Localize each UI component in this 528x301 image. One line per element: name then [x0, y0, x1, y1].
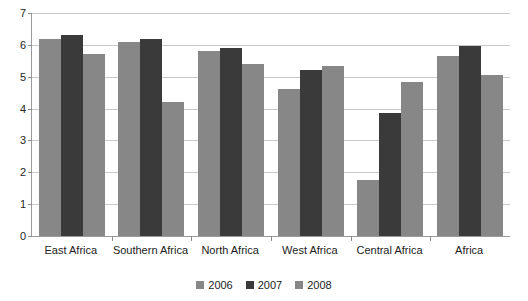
- bar-chart: 01234567 East AfricaSouthern AfricaNorth…: [0, 0, 528, 301]
- y-axis-label: 6: [20, 39, 26, 50]
- bar: [379, 113, 401, 236]
- x-axis-tick: [351, 236, 352, 241]
- x-axis-tick: [430, 236, 431, 241]
- bar: [198, 51, 220, 236]
- bar: [278, 89, 300, 236]
- legend-label: 2008: [307, 279, 331, 291]
- bar: [118, 42, 140, 236]
- legend-swatch-icon: [246, 281, 254, 289]
- chart-legend: 200620072008: [0, 279, 528, 291]
- category-label: West Africa: [270, 244, 350, 257]
- y-axis-label: 0: [20, 231, 26, 242]
- x-axis-tick: [271, 236, 272, 241]
- y-axis-label: 4: [20, 103, 26, 114]
- legend-label: 2007: [258, 279, 282, 291]
- category-label: Africa: [429, 244, 509, 257]
- legend-label: 2006: [208, 279, 232, 291]
- y-axis-label: 1: [20, 199, 26, 210]
- bar-group: [32, 13, 112, 236]
- bar: [401, 82, 423, 237]
- legend-item[interactable]: 2007: [246, 279, 282, 291]
- bar: [61, 35, 83, 236]
- bar-group: [271, 13, 351, 236]
- legend-swatch-icon: [196, 281, 204, 289]
- category-label: North Africa: [190, 244, 270, 257]
- y-axis-label: 3: [20, 135, 26, 146]
- bar-group: [351, 13, 431, 236]
- plot-area: 01234567: [31, 13, 510, 237]
- bar: [140, 39, 162, 237]
- bar-group: [191, 13, 271, 236]
- y-axis-label: 7: [20, 8, 26, 19]
- bar: [300, 70, 322, 236]
- bar: [481, 75, 503, 236]
- bar-group: [112, 13, 192, 236]
- bar-group: [430, 13, 510, 236]
- bar: [357, 180, 379, 236]
- legend-item[interactable]: 2006: [196, 279, 232, 291]
- x-axis-tick: [112, 236, 113, 241]
- y-axis-label: 2: [20, 167, 26, 178]
- bar: [39, 39, 61, 237]
- legend-item[interactable]: 2008: [295, 279, 331, 291]
- legend-swatch-icon: [295, 281, 303, 289]
- y-axis-tick: [28, 236, 32, 237]
- category-label: Central Africa: [350, 244, 430, 257]
- bar: [459, 46, 481, 236]
- chart-title: [40, 0, 440, 4]
- bar: [83, 54, 105, 236]
- bar: [162, 102, 184, 236]
- bar: [322, 66, 344, 236]
- bar: [437, 56, 459, 236]
- bar: [220, 48, 242, 236]
- category-label: Southern Africa: [111, 244, 191, 257]
- category-label: East Africa: [31, 244, 111, 257]
- x-axis-tick: [191, 236, 192, 241]
- bar: [242, 64, 264, 236]
- y-axis-label: 5: [20, 71, 26, 82]
